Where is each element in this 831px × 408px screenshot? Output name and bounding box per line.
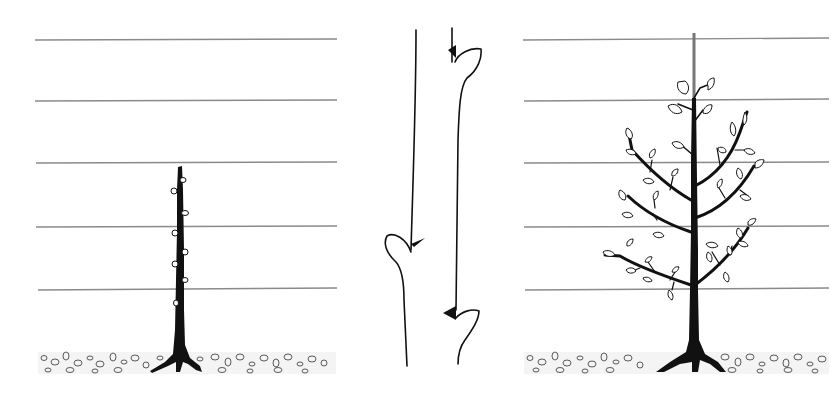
panel-feathered-tree [523, 33, 829, 374]
branches [605, 84, 754, 290]
tree-training-diagram [0, 0, 831, 408]
leaves [603, 78, 764, 300]
panel-maiden-whip [35, 39, 337, 374]
maiden-whip-trunk [150, 166, 202, 373]
support-wires [523, 38, 829, 290]
feathered-tree-trunk [656, 98, 726, 372]
stem-right [443, 28, 481, 364]
panel-pruning-cut-detail [385, 28, 481, 366]
stem-left [385, 30, 425, 366]
